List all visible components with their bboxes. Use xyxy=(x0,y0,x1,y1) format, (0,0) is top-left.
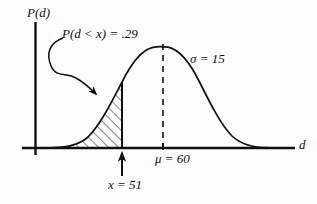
sigma-annotation-label: σ = 15 xyxy=(190,52,225,65)
normal-distribution-figure: P(d) P(d < x) = .29 σ = 15 μ = 60 x = 51… xyxy=(0,0,317,204)
y-axis-label: P(d) xyxy=(27,6,50,19)
probability-leader-arrow xyxy=(49,38,96,94)
cutoff-annotation-label: x = 51 xyxy=(108,178,142,191)
probability-annotation-label: P(d < x) = .29 xyxy=(62,27,138,40)
x-axis-label: d xyxy=(299,138,306,151)
normal-curve xyxy=(52,47,268,148)
mean-annotation-label: μ = 60 xyxy=(155,152,190,165)
distribution-plot-svg xyxy=(0,0,317,204)
